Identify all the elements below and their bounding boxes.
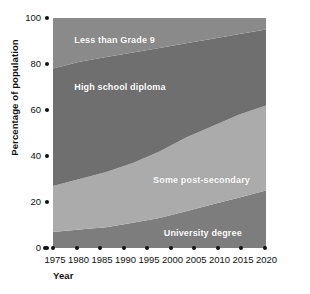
y-axis-tick-dot	[45, 108, 49, 112]
y-axis-tick-label: 80	[30, 58, 41, 70]
x-axis-tick-dot	[192, 246, 196, 250]
plot-area	[53, 18, 266, 248]
x-axis-title: Year	[53, 270, 73, 281]
y-axis-tick-label: 40	[30, 150, 41, 162]
y-axis-tick-label: 100	[25, 12, 41, 24]
y-axis-tick: 40	[14, 150, 49, 162]
y-axis-tick: 20	[14, 196, 49, 208]
y-axis-tick: 60	[14, 104, 49, 116]
stacked-area-chart: Percentage of population 100806040200 Le…	[0, 0, 310, 294]
x-axis-tick-dot	[122, 246, 126, 250]
series-label: Some post-secondary	[153, 175, 250, 185]
area-bands	[53, 18, 266, 248]
y-axis-tick-dot	[45, 200, 49, 204]
x-axis-tick-dot	[239, 246, 243, 250]
x-axis-tick-dot	[145, 246, 149, 250]
y-axis-tick-label: 0	[36, 242, 41, 254]
series-label: High school diploma	[74, 82, 165, 92]
y-axis-tick: 80	[14, 58, 49, 70]
origin-tick-dot	[43, 246, 47, 250]
x-axis-tick-dot	[75, 246, 79, 250]
y-axis-tick-dot	[45, 62, 49, 66]
y-axis-tick: 100	[14, 12, 49, 24]
series-label: Less than Grade 9	[74, 35, 155, 45]
y-axis-tick-dot	[45, 154, 49, 158]
x-axis-tick-dot	[263, 246, 267, 250]
y-axis-tick-label: 20	[30, 196, 41, 208]
x-axis-tick-dot	[51, 246, 55, 250]
x-axis-tick-dot	[98, 246, 102, 250]
series-label: University degree	[164, 228, 242, 238]
x-axis-tick-dot	[216, 246, 220, 250]
x-axis-tick-dot	[169, 246, 173, 250]
y-axis-tick-label: 60	[30, 104, 41, 116]
y-axis-tick-dot	[45, 16, 49, 20]
x-axis-tick-label: 2020	[252, 254, 282, 265]
